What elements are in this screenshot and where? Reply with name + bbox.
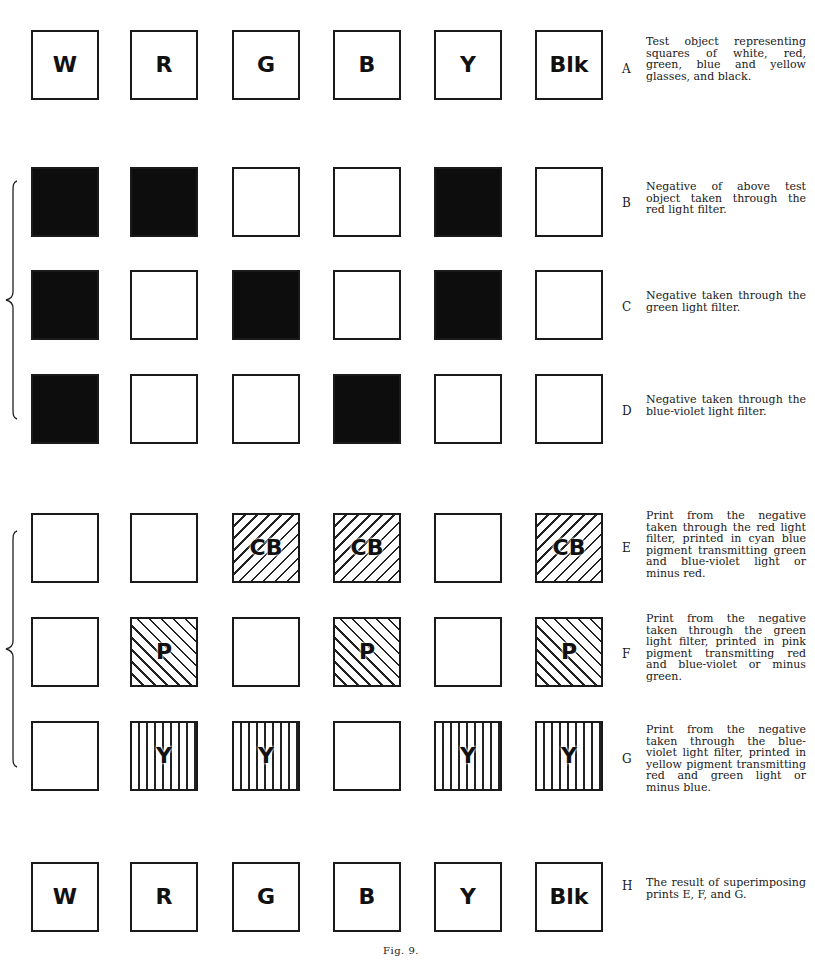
square-d-g [232, 374, 300, 444]
square-c-w [31, 270, 99, 340]
square-label: Y [459, 745, 477, 767]
square-h-w: W [31, 862, 99, 932]
square-h-y: Y [434, 862, 502, 932]
square-g-blk: Y [535, 721, 603, 791]
square-a-r: R [130, 30, 198, 100]
square-h-g: G [232, 862, 300, 932]
square-label: W [52, 886, 78, 908]
square-label: R [155, 886, 174, 908]
square-label: P [560, 641, 578, 663]
square-e-w [31, 513, 99, 583]
square-label: CB [350, 537, 385, 559]
row-description: The result of superimposing prints E, F,… [646, 877, 806, 900]
square-g-r: Y [130, 721, 198, 791]
square-h-r: R [130, 862, 198, 932]
square-d-w [31, 374, 99, 444]
square-b-b [333, 167, 401, 237]
square-a-w: W [31, 30, 99, 100]
square-label: Blk [549, 54, 590, 76]
square-f-blk: P [535, 617, 603, 687]
square-d-blk [535, 374, 603, 444]
square-c-r [130, 270, 198, 340]
square-c-b [333, 270, 401, 340]
square-f-b: P [333, 617, 401, 687]
square-b-g [232, 167, 300, 237]
curly-brace-icon [4, 180, 18, 420]
square-label: Y [257, 745, 275, 767]
square-label: Y [459, 54, 477, 76]
square-label: Y [155, 745, 173, 767]
square-label: P [155, 641, 173, 663]
row-description: Print from the negative taken through th… [646, 613, 806, 682]
square-b-y [434, 167, 502, 237]
square-label: CB [249, 537, 284, 559]
square-label: Blk [549, 886, 590, 908]
row-description: Print from the negative taken through th… [646, 724, 806, 793]
square-f-r: P [130, 617, 198, 687]
square-label: Y [459, 886, 477, 908]
square-label: G [256, 886, 276, 908]
square-a-y: Y [434, 30, 502, 100]
square-a-b: B [333, 30, 401, 100]
row-letter: H [622, 879, 632, 893]
row-letter: G [622, 752, 632, 766]
square-e-blk: CB [535, 513, 603, 583]
square-label: P [358, 641, 376, 663]
square-label: B [358, 54, 377, 76]
square-c-blk [535, 270, 603, 340]
square-d-r [130, 374, 198, 444]
square-c-g [232, 270, 300, 340]
figure-caption: Fig. 9. [383, 945, 419, 956]
square-g-g: Y [232, 721, 300, 791]
row-letter: B [622, 196, 631, 210]
square-e-r [130, 513, 198, 583]
square-label: R [155, 54, 174, 76]
square-h-b: B [333, 862, 401, 932]
square-b-r [130, 167, 198, 237]
square-g-b [333, 721, 401, 791]
square-b-w [31, 167, 99, 237]
square-label: W [52, 54, 78, 76]
square-e-b: CB [333, 513, 401, 583]
square-a-blk: Blk [535, 30, 603, 100]
square-g-w [31, 721, 99, 791]
square-f-g [232, 617, 300, 687]
square-label: B [358, 886, 377, 908]
square-d-b [333, 374, 401, 444]
row-description: Negative taken through the blue-violet l… [646, 394, 806, 417]
row-description: Print from the negative taken through th… [646, 510, 806, 579]
square-e-g: CB [232, 513, 300, 583]
row-description: Test object representing squares of whit… [646, 36, 806, 82]
square-d-y [434, 374, 502, 444]
square-f-w [31, 617, 99, 687]
cropped-text-line [0, 0, 815, 4]
square-label: CB [552, 537, 587, 559]
square-a-g: G [232, 30, 300, 100]
square-b-blk [535, 167, 603, 237]
row-letter: F [622, 647, 630, 661]
square-g-y: Y [434, 721, 502, 791]
row-description: Negative of above test object taken thro… [646, 181, 806, 216]
square-f-y [434, 617, 502, 687]
square-label: Y [560, 745, 578, 767]
square-c-y [434, 270, 502, 340]
row-letter: E [622, 541, 631, 555]
row-letter: C [622, 300, 631, 314]
square-e-y [434, 513, 502, 583]
square-label: G [256, 54, 276, 76]
curly-brace-icon [4, 530, 18, 768]
row-description: Negative taken through the green light f… [646, 290, 806, 313]
square-h-blk: Blk [535, 862, 603, 932]
row-letter: A [622, 62, 631, 76]
row-letter: D [622, 404, 632, 418]
